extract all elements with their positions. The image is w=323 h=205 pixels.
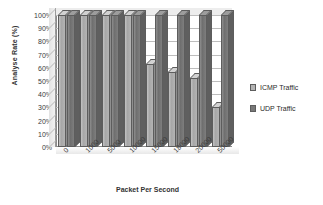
bar-udp[interactable]: [199, 15, 207, 147]
legend-swatch-icon: [250, 84, 256, 91]
bar-face: [102, 15, 110, 147]
bar-udp[interactable]: [133, 15, 141, 147]
x-axis-tick-labels: 0100050001000015000180002000050000: [56, 149, 239, 183]
bar-icmp[interactable]: [212, 107, 220, 147]
y-axis-tick-labels: 100%90%80%70%60%50%40%30%20%10%0%: [8, 0, 52, 205]
bar-group: [56, 15, 78, 147]
bar-icmp[interactable]: [146, 64, 154, 147]
bar-face: [80, 15, 88, 147]
bar-icmp[interactable]: [102, 15, 110, 147]
y-tick-label: 70%: [12, 52, 52, 59]
bar-face: [168, 72, 176, 147]
bar-udp[interactable]: [155, 15, 163, 147]
bar-icmp[interactable]: [80, 15, 88, 147]
bar-udp[interactable]: [89, 15, 97, 147]
bar-face: [67, 15, 75, 147]
y-tick-label: 80%: [12, 38, 52, 45]
bar-face: [155, 15, 163, 147]
bar-udp[interactable]: [111, 15, 119, 147]
bar-face: [89, 15, 97, 147]
y-tick-label: 60%: [12, 65, 52, 72]
y-tick-label: 20%: [12, 118, 52, 125]
bar-face: [212, 107, 220, 147]
y-tick-label: 40%: [12, 91, 52, 98]
x-axis-title: Packet Per Second: [56, 186, 239, 193]
legend: ICMP TrafficUDP Traffic: [250, 84, 322, 126]
y-tick-label: 10%: [12, 131, 52, 138]
bar-group: [100, 15, 122, 147]
bar-icmp[interactable]: [190, 78, 198, 147]
bar-icmp[interactable]: [168, 72, 176, 147]
bar-group: [166, 15, 188, 147]
plot-area: [56, 15, 232, 147]
bar-icmp[interactable]: [58, 15, 66, 147]
bar-chart: Analyse Rate (%) 100%90%80%70%60%50%40%3…: [0, 0, 323, 205]
bar-face: [177, 15, 185, 147]
legend-label: UDP Traffic: [260, 105, 296, 112]
bar-face: [124, 15, 132, 147]
y-tick-label: 50%: [12, 78, 52, 85]
bar-group: [210, 15, 232, 147]
bar-face: [221, 15, 229, 147]
bar-face: [58, 15, 66, 147]
bar-group: [144, 15, 166, 147]
bar-group: [122, 15, 144, 147]
y-tick-label: 100%: [12, 12, 52, 19]
legend-item-udp[interactable]: UDP Traffic: [250, 105, 322, 112]
y-tick-label: 0%: [12, 144, 52, 151]
bar-icmp[interactable]: [124, 15, 132, 147]
bar-groups: [56, 15, 232, 147]
y-tick-label: 30%: [12, 104, 52, 111]
bar-face: [133, 15, 141, 147]
bar-face: [111, 15, 119, 147]
bar-face: [146, 64, 154, 147]
bar-group: [78, 15, 100, 147]
bar-udp[interactable]: [67, 15, 75, 147]
bar-face: [199, 15, 207, 147]
bar-udp[interactable]: [221, 15, 229, 147]
bar-face: [190, 78, 198, 147]
bar-group: [188, 15, 210, 147]
legend-item-icmp[interactable]: ICMP Traffic: [250, 84, 322, 91]
bar-side: [229, 10, 234, 147]
legend-label: ICMP Traffic: [260, 84, 298, 91]
y-tick-label: 90%: [12, 25, 52, 32]
bar-udp[interactable]: [177, 15, 185, 147]
legend-swatch-icon: [250, 105, 256, 112]
